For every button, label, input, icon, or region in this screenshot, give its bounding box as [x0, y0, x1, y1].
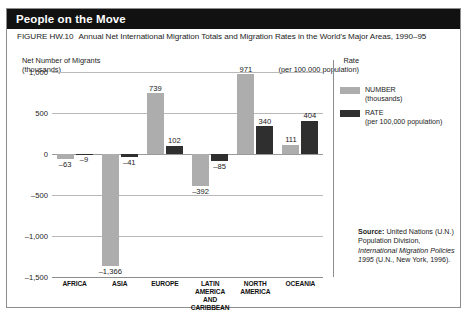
- bar-value-label: –63: [59, 160, 72, 169]
- y-axis-tick-label: 500: [35, 109, 48, 118]
- bar-value-label: –85: [213, 162, 226, 171]
- bar-number: [237, 74, 254, 154]
- y-axis-tick-label: –500: [31, 191, 48, 200]
- bar-value-label: –9: [80, 155, 88, 164]
- y-axis-tick-label: 1,000: [29, 68, 48, 77]
- bar-value-label: 340: [258, 117, 271, 126]
- banner-title: People on the Move: [16, 13, 126, 25]
- plot-area: 1,0005000–500–1,000–1,500 –63–9–1,366–41…: [52, 72, 323, 277]
- category-label-line: OCEANIA: [278, 280, 323, 288]
- category-label-line: AND CARIBBEAN: [188, 296, 233, 312]
- legend-series-name: NUMBER: [365, 86, 396, 94]
- bar-group: –1,366–41: [97, 72, 142, 277]
- legend-item: NUMBER(thousands): [340, 86, 456, 103]
- bar-rate: [121, 154, 138, 157]
- legend-label: RATE(per 100,000 population): [365, 109, 442, 126]
- bar-rate: [256, 126, 273, 154]
- bar-group: 971340: [233, 72, 278, 277]
- category-label: EUROPE: [142, 280, 187, 312]
- legend-series-unit: (thousands): [365, 95, 402, 104]
- category-label-line: AFRICA: [52, 280, 97, 288]
- bar-number: [147, 93, 164, 154]
- rate-swatch: [340, 110, 360, 117]
- gridline: [52, 277, 323, 278]
- bar-number: [192, 154, 209, 186]
- figure-number: FIGURE HW.10: [17, 32, 74, 41]
- figure-container: People on the Move FIGURE HW.10Annual Ne…: [0, 0, 469, 317]
- bar-rate: [211, 154, 228, 161]
- category-label: ASIA: [97, 280, 142, 312]
- bar-rate: [166, 146, 183, 154]
- bar-group: –63–9: [52, 72, 97, 277]
- bar-number: [102, 154, 119, 266]
- category-label-line: AMERICA: [233, 288, 278, 296]
- legend-label: NUMBER(thousands): [365, 86, 402, 103]
- source-note: Source: United Nations (U.N.) Population…: [358, 228, 458, 266]
- category-label-line: NORTH: [233, 280, 278, 288]
- legend-series-name: RATE: [365, 109, 383, 117]
- bar-value-label: 739: [149, 84, 162, 93]
- category-label-line: LATIN AMERICA: [188, 280, 233, 296]
- category-label: LATIN AMERICAAND CARIBBEAN: [188, 280, 233, 312]
- category-label-line: EUROPE: [142, 280, 187, 288]
- chart-legend: NUMBER(thousands)RATE(per 100,000 popula…: [340, 86, 456, 132]
- legend-series-unit: (per 100,000 population): [365, 118, 442, 127]
- bar-groups: –63–9–1,366–41739102–392–85971340111404: [52, 72, 323, 277]
- y-axis-tick-label: –1,500: [25, 273, 48, 282]
- bar-value-label: 102: [168, 136, 181, 145]
- category-label: NORTHAMERICA: [233, 280, 278, 312]
- bar-rate: [301, 121, 318, 154]
- legend-divider: [333, 60, 334, 277]
- right-axis-title-line1: Rate: [247, 56, 359, 65]
- category-label: AFRICA: [52, 280, 97, 312]
- bar-group: 739102: [142, 72, 187, 277]
- bar-value-label: –1,366: [99, 267, 122, 276]
- bar-number: [57, 154, 74, 159]
- bar-value-label: 971: [239, 65, 252, 74]
- bar-group: 111404: [278, 72, 323, 277]
- bar-value-label: –392: [192, 187, 209, 196]
- number-swatch: [340, 87, 360, 94]
- bar-group: –392–85: [188, 72, 233, 277]
- figure-caption-text: Annual Net International Migration Total…: [79, 32, 427, 41]
- legend-item: RATE(per 100,000 population): [340, 109, 456, 126]
- category-label-line: ASIA: [97, 280, 142, 288]
- bar-value-label: 404: [304, 111, 317, 120]
- y-axis-tick-label: 0: [44, 150, 48, 159]
- source-label: Source:: [358, 228, 384, 236]
- bar-value-label: –41: [123, 158, 136, 167]
- y-axis-tick-label: –1,000: [25, 232, 48, 241]
- bar-number: [282, 145, 299, 154]
- figure-banner: People on the Move: [7, 9, 460, 29]
- left-axis-title-line1: Net Number of Migrants: [22, 56, 100, 65]
- figure-caption: FIGURE HW.10Annual Net International Mig…: [17, 32, 457, 41]
- category-axis-labels: AFRICAASIAEUROPELATIN AMERICAAND CARIBBE…: [52, 280, 323, 312]
- source-part2: (U.N., New York, 1996).: [374, 256, 451, 264]
- category-label: OCEANIA: [278, 280, 323, 312]
- bar-value-label: 111: [285, 135, 297, 144]
